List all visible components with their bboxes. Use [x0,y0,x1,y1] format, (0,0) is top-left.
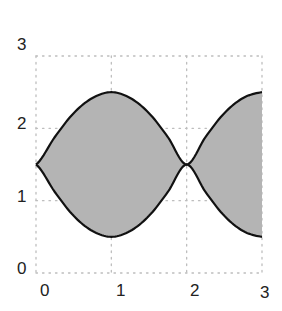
chart: 0 1 2 3 0 1 2 3 [0,0,282,311]
x-tick-label: 2 [190,281,199,300]
y-axis-ticks: 0 1 2 3 [17,35,26,278]
x-tick-label: 0 [40,281,49,300]
x-tick-label: 3 [260,283,269,302]
y-tick-label: 2 [17,114,26,133]
y-tick-label: 3 [17,35,26,54]
y-tick-label: 0 [17,259,26,278]
x-axis-ticks: 0 1 2 3 [40,281,269,302]
y-tick-label: 1 [17,187,26,206]
x-tick-label: 1 [116,281,125,300]
